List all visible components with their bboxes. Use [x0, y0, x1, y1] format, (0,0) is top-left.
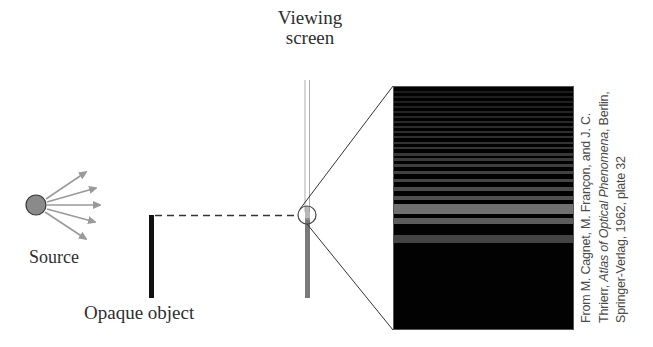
viewing-screen-label-line1: Viewing [251, 8, 369, 28]
caption-line-1: From M. Cagnet, M. Françon, and J. C. [578, 91, 596, 323]
fringe-band [394, 126, 573, 128]
caption-line-2: Thrierr, Atlas of Optical Phenomena, Ber… [596, 91, 614, 323]
fringe-band [394, 158, 573, 161]
zoom-line-top [300, 86, 393, 209]
viewing-screen-label: Viewing screen [251, 8, 369, 48]
viewing-screen [305, 80, 310, 298]
fringe-band [394, 96, 573, 98]
caption-text: , Berlin, [597, 91, 611, 132]
zoom-line-bottom [307, 224, 393, 330]
fringe-band [394, 153, 573, 156]
diffraction-fringe-photo [393, 86, 574, 330]
ray-arrow-icon [47, 188, 96, 202]
fringe-band [394, 142, 573, 144]
fringe-band [394, 164, 573, 167]
fringe-band [394, 111, 573, 113]
opaque-object [149, 215, 154, 298]
fringe-band [394, 136, 573, 138]
viewing-screen-label-line2: screen [251, 28, 369, 48]
photo-credit-caption: From M. Cagnet, M. Françon, and J. C. Th… [578, 91, 631, 323]
light-source [26, 195, 46, 215]
opaque-object-label: Opaque object [84, 304, 194, 322]
fringe-band [394, 131, 573, 133]
caption-book-title: Atlas of Optical Phenomena [597, 132, 611, 282]
fringe-band [394, 179, 573, 182]
ray-arrow-icon [45, 212, 86, 239]
caption-line-3: Springer-Verlag, 1962, plate 32 [613, 91, 631, 323]
fringe-band [394, 121, 573, 123]
fringe-band [394, 91, 573, 93]
source-label: Source [29, 248, 79, 266]
caption-text: Thrierr, [597, 282, 611, 323]
fringe-band [394, 187, 573, 191]
fringe-band [394, 101, 573, 103]
fringe-band [394, 116, 573, 118]
light-rays [45, 172, 100, 239]
fringe-band [394, 218, 573, 224]
screen-shadow-region [305, 218, 310, 298]
source-circle-icon [26, 195, 46, 215]
fringe-band [394, 147, 573, 149]
fringe-band [394, 235, 573, 243]
ray-arrow-icon [46, 172, 86, 199]
fringe-band [394, 196, 573, 200]
fringe-band [394, 171, 573, 174]
fringe-band [394, 106, 573, 108]
ray-arrow-icon [47, 209, 95, 222]
fringe-band [394, 204, 573, 214]
